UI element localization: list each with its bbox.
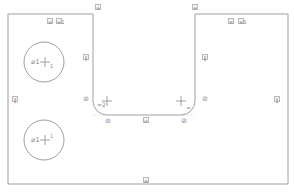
circle-lower-sub: 1 <box>50 133 53 140</box>
horizontal-constraint-icon[interactable]: = <box>228 18 234 24</box>
vertical-constraint-icon[interactable]: ‖ <box>83 54 89 60</box>
horizontal-constraint-icon[interactable]: = <box>95 4 101 10</box>
circle-upper-diameter-label: ⌀1 <box>31 59 40 66</box>
equal-constraint-icon[interactable]: = <box>186 104 191 111</box>
horizontal-constraint-icon[interactable]: = <box>47 18 53 24</box>
center-mark-lower[interactable] <box>40 135 50 145</box>
equal-constraint-icon[interactable]: =1 <box>238 18 244 24</box>
horizontal-constraint-icon[interactable]: = <box>192 4 198 10</box>
sketch-canvas[interactable] <box>0 0 294 195</box>
fillet-center-right[interactable] <box>176 96 186 106</box>
vertical-constraint-icon[interactable]: ‖ <box>12 96 18 102</box>
vertical-constraint-icon[interactable]: ‖ <box>274 96 280 102</box>
circle-upper-sub: 1 <box>50 63 53 70</box>
horizontal-constraint-icon[interactable]: = <box>143 177 149 183</box>
tangent-constraint-icon[interactable]: ⊘ <box>105 118 111 125</box>
center-mark-upper[interactable] <box>40 57 50 67</box>
equal-constraint-icon[interactable]: =1 <box>56 18 62 24</box>
circle-lower-diameter-label: ⌀1 <box>31 137 40 144</box>
tangent-constraint-icon[interactable]: ⊘ <box>181 118 187 125</box>
equal-constraint-icon[interactable]: =2 <box>97 101 106 108</box>
sketch-profile[interactable] <box>8 14 288 184</box>
tangent-constraint-icon[interactable]: ⊘ <box>202 96 208 103</box>
horizontal-constraint-icon[interactable]: = <box>143 117 149 123</box>
vertical-constraint-icon[interactable]: ‖ <box>202 54 208 60</box>
tangent-constraint-icon[interactable]: ⊘ <box>83 96 89 103</box>
